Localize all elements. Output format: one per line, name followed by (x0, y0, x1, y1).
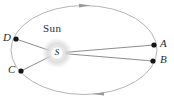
orbit-diagram: Sun S D C A B (0, 0, 174, 105)
sun-symbol-label: S (55, 48, 60, 57)
point-dot-d (13, 36, 18, 41)
point-dot-a (151, 42, 156, 47)
sun-label: Sun (43, 23, 62, 34)
orbit-direction-arrow-bottom (92, 92, 104, 95)
orbit-direction-arrow-top (79, 4, 91, 8)
point-dot-b (150, 58, 155, 63)
point-label-a: A (160, 38, 167, 49)
orbit-ellipse (11, 6, 157, 95)
point-label-c: C (8, 64, 15, 75)
point-label-b: B (160, 54, 167, 65)
point-label-d: D (3, 32, 11, 43)
point-dot-c (18, 68, 23, 73)
orbit-diagram-canvas (0, 0, 174, 105)
